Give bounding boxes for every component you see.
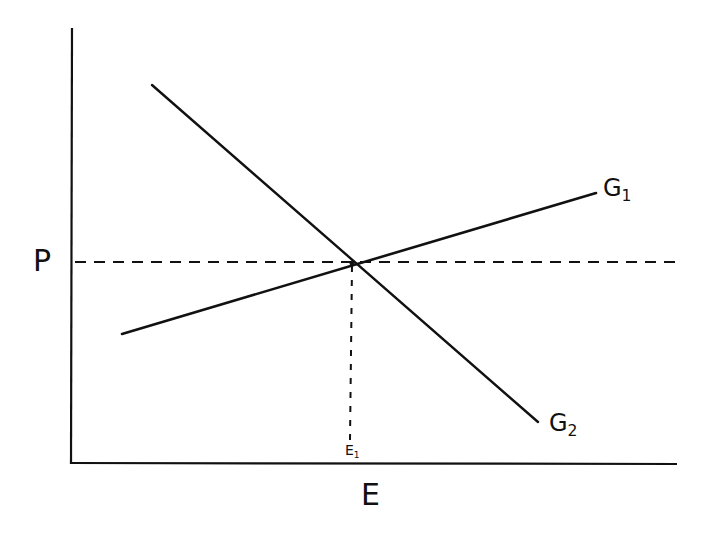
y-axis <box>71 28 72 464</box>
e1-label-main: E <box>345 442 354 458</box>
e1-label-sub: 1 <box>354 450 360 460</box>
g1-label: G1 <box>603 176 632 205</box>
g2-line <box>152 85 538 422</box>
equilibrium-dashed-line <box>350 266 352 440</box>
g2-label-sub: 2 <box>568 422 578 440</box>
x-axis <box>70 463 677 464</box>
g1-label-main: G <box>603 174 622 202</box>
intersection-point <box>350 261 355 266</box>
y-axis-label: P <box>33 246 51 276</box>
g1-label-sub: 1 <box>622 187 632 205</box>
e1-label: E1 <box>345 443 360 460</box>
g2-label-main: G <box>549 409 568 437</box>
g1-line <box>122 193 596 334</box>
g2-label: G2 <box>549 411 578 440</box>
x-axis-label: E <box>361 480 380 510</box>
